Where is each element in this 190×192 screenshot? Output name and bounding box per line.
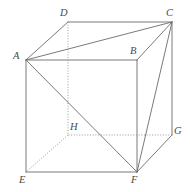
diagonal-ac (26, 22, 172, 60)
vertex-label-b: B (130, 46, 136, 57)
edge-cb (137, 22, 172, 60)
diagonal-af (26, 60, 137, 172)
vertex-label-c: C (166, 8, 173, 19)
vertex-label-g: G (174, 126, 182, 137)
diagonal-cf (137, 22, 172, 172)
cube-diagonals-group (26, 22, 172, 172)
vertex-label-f: F (131, 175, 137, 186)
vertex-label-e: E (19, 175, 25, 186)
cube-edges-group (26, 22, 172, 172)
edge-he (26, 135, 68, 172)
vertex-label-h: H (70, 122, 78, 133)
vertex-label-a: A (13, 51, 19, 62)
edge-fg (137, 135, 172, 172)
cube-figure: ABCDEFGH (0, 0, 190, 192)
cube-line-drawing (0, 0, 190, 192)
vertex-label-d: D (60, 8, 68, 19)
